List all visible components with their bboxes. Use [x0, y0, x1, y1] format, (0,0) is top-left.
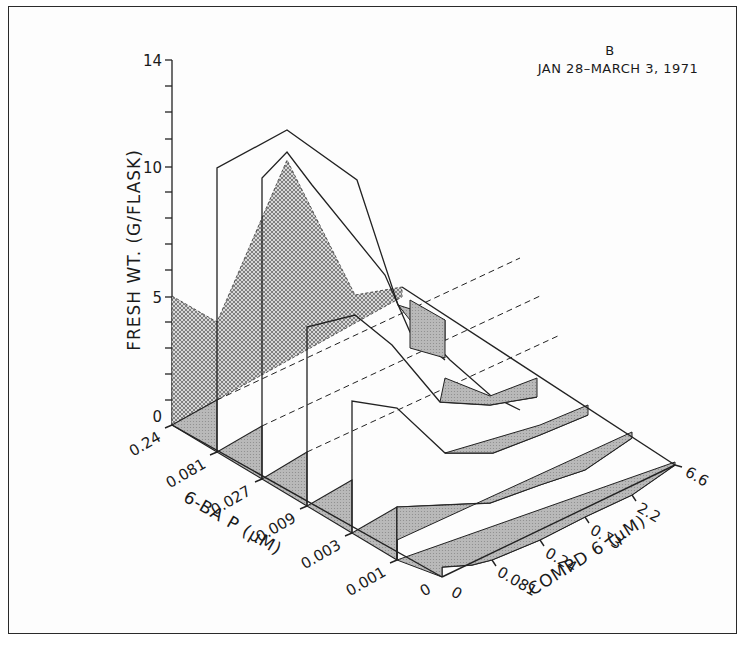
- z-tick-10: 10: [143, 159, 162, 177]
- floor-edge: [402, 287, 675, 465]
- x-tick-6.6: 6.6: [682, 463, 712, 491]
- chart-title: JAN 28–MARCH 3, 1971: [537, 61, 699, 76]
- series-0.003-fill: [445, 405, 588, 453]
- z-tick-0: 0: [152, 408, 162, 426]
- z-tick-5: 5: [152, 289, 162, 307]
- z-axis: [165, 60, 172, 425]
- series-0.24: [172, 160, 402, 425]
- series-0.009-fill: [440, 378, 537, 405]
- floor-ribbons: [172, 400, 397, 560]
- fence-chart: B JAN 28–MARCH 3, 1971 14 10 5 0 FRESH W…: [0, 0, 749, 654]
- y-tick-0.24: 0.24: [126, 428, 164, 460]
- y-tick-0.081: 0.081: [163, 455, 209, 492]
- x-tick-0: 0: [448, 583, 465, 603]
- z-tick-14: 14: [143, 52, 162, 70]
- y-tick-0: 0: [417, 580, 434, 600]
- z-axis-title: FRESH WT. (G/FLASK): [124, 149, 144, 351]
- panel-label: B: [605, 43, 614, 58]
- y-tick-0.003: 0.003: [298, 536, 344, 573]
- y-tick-0.001: 0.001: [343, 563, 389, 600]
- series-0.027-fill: [410, 300, 445, 358]
